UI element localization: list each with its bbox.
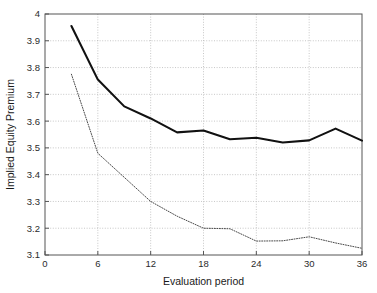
y-tick-label: 3.8 [27, 62, 40, 73]
x-tick-label: 12 [145, 258, 156, 269]
y-tick-label: 3.1 [27, 249, 40, 260]
y-tick-label: 3.9 [27, 35, 40, 46]
y-axis-title: Implied Equity Premium [4, 79, 16, 190]
implied-equity-premium-line-chart: 061218243036 3.13.23.33.43.53.63.73.83.9… [0, 0, 377, 293]
figure-background [0, 0, 377, 293]
y-tick-label: 3.7 [27, 89, 40, 100]
x-tick-label: 18 [198, 258, 209, 269]
x-tick-label: 30 [304, 258, 315, 269]
chart-figure: 061218243036 3.13.23.33.43.53.63.73.83.9… [0, 0, 377, 293]
y-tick-label: 3.2 [27, 223, 40, 234]
x-tick-label: 0 [42, 258, 47, 269]
y-tick-label: 3.3 [27, 196, 40, 207]
x-tick-label: 24 [251, 258, 262, 269]
y-tick-label: 3.4 [27, 169, 40, 180]
y-tick-label: 4 [35, 8, 40, 19]
x-tick-label: 36 [357, 258, 368, 269]
x-axis-title: Evaluation period [163, 275, 244, 287]
y-tick-label: 3.5 [27, 142, 40, 153]
x-tick-label: 6 [95, 258, 100, 269]
y-tick-label: 3.6 [27, 116, 40, 127]
